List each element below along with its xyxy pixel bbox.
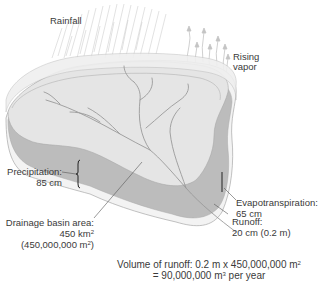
precipitation-label: Precipitation: 85 cm: [2, 166, 62, 188]
drainage-basin-title: Drainage basin area:: [0, 217, 94, 228]
drainage-basin-m: (450,000,000 m2): [0, 239, 94, 250]
runoff-volume-formula: Volume of runoff: 0.2 m x 450,000,000 m2…: [100, 259, 318, 281]
drainage-basin-km: 450 km2: [0, 228, 94, 239]
precipitation-title: Precipitation:: [2, 166, 62, 177]
runoff-label: Runoff: 20 cm (0.2 m): [232, 216, 291, 238]
drainage-basin-label: Drainage basin area: 450 km2 (450,000,00…: [0, 217, 94, 250]
runoff-value: 20 cm (0.2 m): [232, 227, 291, 238]
rainfall-streaks: [52, 4, 166, 58]
rising-vapor-label: Rising vapor: [233, 52, 259, 72]
formula-line2: = 90,000,000 m3 per year: [100, 270, 318, 281]
formula-line1: Volume of runoff: 0.2 m x 450,000,000 m2: [100, 259, 318, 270]
rising-vapor-line2: vapor: [233, 62, 259, 72]
rainfall-label: Rainfall: [50, 15, 82, 26]
runoff-title: Runoff:: [232, 216, 291, 227]
precipitation-value: 85 cm: [2, 177, 62, 188]
evapotranspiration-title: Evapotranspiration:: [236, 197, 318, 208]
